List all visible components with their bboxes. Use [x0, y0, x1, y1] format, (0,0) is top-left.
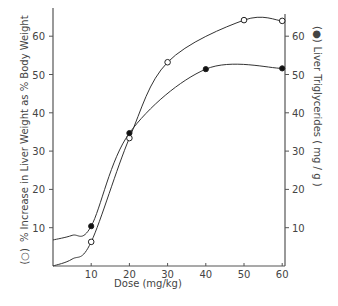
filled-circle-marker [280, 66, 285, 71]
filled-circle-marker [203, 67, 208, 72]
x-tick-label: 60 [276, 269, 289, 280]
liver-weight-curve [53, 17, 282, 266]
right-axis-marker: (●) [312, 26, 323, 43]
filled-circle-marker [89, 224, 94, 229]
y-right-tick-label: 20 [292, 184, 305, 195]
x-tick-label: 10 [85, 269, 98, 280]
right-axis-title: (●)Liver Triglycerides ( mg / g ) [312, 26, 323, 187]
right-axis-label: Liver Triglycerides ( mg / g ) [312, 47, 323, 187]
y-right-tick-label: 60 [292, 31, 305, 42]
curves [53, 17, 282, 266]
axes [53, 8, 285, 266]
chart: 102030405060102030405060102030405060 Dos… [0, 0, 338, 306]
svg-text:(○)% Increase in Liver Weight: (○)% Increase in Liver Weight as % Body … [19, 15, 30, 264]
y-left-tick-label: 20 [32, 184, 45, 195]
y-right-tick-label: 50 [292, 70, 305, 81]
y-left-tick-label: 10 [32, 223, 45, 234]
y-left-tick-label: 30 [32, 146, 45, 157]
y-left-tick-label: 60 [32, 31, 45, 42]
open-circle-marker [165, 59, 171, 65]
y-left-tick-label: 40 [32, 108, 45, 119]
filled-circle-marker [127, 130, 132, 135]
left-axis-label: % Increase in Liver Weight as % Body Wei… [19, 15, 30, 242]
svg-text:(●)Liver Triglycerides ( mg /: (●)Liver Triglycerides ( mg / g ) [312, 26, 323, 187]
y-right-tick-label: 40 [292, 108, 305, 119]
open-circle-marker [88, 239, 94, 245]
triglycerides-curve [53, 64, 282, 240]
left-axis-marker: (○) [19, 248, 30, 265]
x-tick-label: 50 [238, 269, 251, 280]
open-circle-marker [279, 18, 285, 24]
ticks: 102030405060102030405060102030405060 [32, 31, 304, 280]
markers [88, 17, 285, 244]
x-tick-label: 40 [199, 269, 212, 280]
y-right-tick-label: 30 [292, 146, 305, 157]
y-right-tick-label: 10 [292, 223, 305, 234]
y-left-tick-label: 50 [32, 70, 45, 81]
open-circle-marker [241, 17, 247, 23]
left-axis-title: (○)% Increase in Liver Weight as % Body … [19, 15, 30, 264]
x-axis-title: Dose (mg/kg) [114, 278, 182, 289]
